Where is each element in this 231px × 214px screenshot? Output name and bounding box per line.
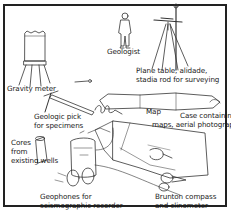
stake-icon xyxy=(75,80,91,83)
label-brunton-line2: and clinometer xyxy=(155,202,208,211)
label-map: Map xyxy=(146,108,161,117)
geologist-figure xyxy=(119,13,131,48)
plane-table-icon xyxy=(152,4,188,70)
illustration xyxy=(0,0,231,214)
seismograph-recorder-icon xyxy=(71,128,110,177)
label-pick-line2: for specimens xyxy=(34,122,83,131)
gravity-meter-icon xyxy=(19,31,50,87)
rope-coil-icon xyxy=(95,106,122,115)
label-cores-line3: existing wells xyxy=(11,157,58,166)
label-case-line2: maps, aerial photographs xyxy=(152,121,231,130)
cables xyxy=(80,128,180,195)
label-plane-table-line2: stadia rod for surveying xyxy=(136,76,219,85)
label-geophones-line2: seismographic recorder xyxy=(40,202,123,211)
label-geologist: Geologist xyxy=(107,48,140,57)
label-gravity-meter: Gravity meter xyxy=(7,85,56,94)
